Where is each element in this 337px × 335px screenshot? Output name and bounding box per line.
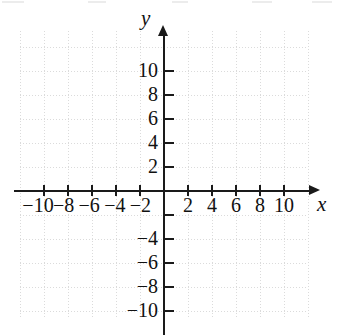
y-axis-tick bbox=[163, 238, 174, 240]
y-axis-tick bbox=[163, 286, 174, 288]
gridline-vertical bbox=[284, 31, 285, 319]
y-axis-tick-label: 2 bbox=[108, 156, 158, 176]
gridline-vertical bbox=[212, 31, 213, 319]
gridline-vertical bbox=[236, 31, 237, 319]
y-axis-line bbox=[163, 36, 165, 335]
scan-artifact bbox=[312, 1, 332, 3]
x-axis-tick-label: 10 bbox=[264, 195, 304, 215]
y-axis-tick-label: −4 bbox=[108, 228, 158, 248]
gridline-vertical bbox=[92, 31, 93, 319]
coordinate-plane-figure: −10−8−6−4−2246810108642−4−6−8−10 x y bbox=[0, 0, 337, 335]
x-axis-label: x bbox=[317, 192, 326, 217]
y-axis-tick-label: 10 bbox=[108, 60, 158, 80]
y-axis-tick-label: 6 bbox=[108, 108, 158, 128]
y-axis-arrow-icon bbox=[158, 25, 168, 36]
y-axis-tick bbox=[163, 310, 174, 312]
y-axis-tick-label: −10 bbox=[108, 300, 158, 320]
y-axis-tick-label: −8 bbox=[108, 276, 158, 296]
y-axis-tick-label: −6 bbox=[108, 252, 158, 272]
y-axis-tick bbox=[163, 214, 174, 216]
scan-artifact bbox=[88, 1, 106, 3]
scan-artifact bbox=[2, 1, 24, 3]
y-axis-tick bbox=[163, 142, 174, 144]
gridline-vertical bbox=[260, 31, 261, 319]
scan-artifact bbox=[172, 1, 188, 3]
y-axis-tick bbox=[163, 166, 174, 168]
y-axis-tick-label: 4 bbox=[108, 132, 158, 152]
gridline-vertical bbox=[68, 31, 69, 319]
y-axis-tick bbox=[163, 118, 174, 120]
gridline-vertical bbox=[44, 31, 45, 319]
gridline-vertical bbox=[308, 31, 309, 319]
y-axis-tick bbox=[163, 262, 174, 264]
x-axis-tick-label: −2 bbox=[120, 195, 160, 215]
y-axis-tick-label: 8 bbox=[108, 84, 158, 104]
scan-artifact bbox=[252, 1, 272, 3]
gridline-vertical bbox=[188, 31, 189, 319]
gridline-vertical bbox=[20, 31, 21, 319]
y-axis-tick bbox=[163, 70, 174, 72]
y-axis-label: y bbox=[141, 6, 150, 31]
y-axis-tick bbox=[163, 94, 174, 96]
